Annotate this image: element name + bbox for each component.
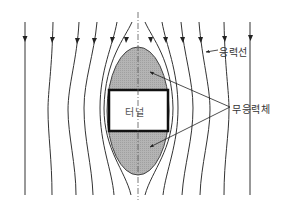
stress-free-zone-label: 무응력체	[232, 101, 270, 116]
tunnel-label: 터널	[125, 104, 144, 119]
stress-line-label: 응력선	[219, 44, 248, 59]
stress-line-leader	[206, 50, 218, 52]
